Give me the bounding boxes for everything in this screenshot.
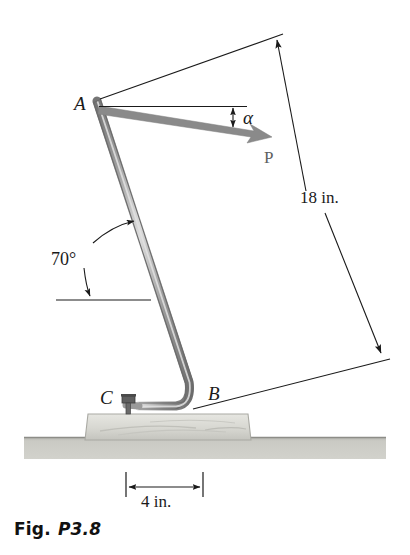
label-point-a: A <box>72 93 86 114</box>
figure-caption: Fig.P3.8 <box>14 519 101 539</box>
label-dimension-18in: 18 in. <box>300 188 339 207</box>
caption-number: P3.8 <box>58 519 101 539</box>
label-point-b: B <box>208 383 220 404</box>
mechanics-diagram: A B C P α 70° 18 in. 4 in. <box>0 0 410 555</box>
dimension-18in <box>100 34 390 409</box>
label-angle-alpha: α <box>243 107 254 128</box>
label-angle-70: 70° <box>51 249 76 269</box>
base-slab <box>85 414 251 440</box>
bent-rod <box>93 99 193 409</box>
label-force-p: P <box>264 148 273 167</box>
figure-container: A B C P α 70° 18 in. 4 in. Fig.P3.8 <box>0 0 410 555</box>
label-point-c: C <box>100 387 113 408</box>
label-dimension-4in: 4 in. <box>141 492 171 511</box>
caption-prefix: Fig. <box>14 519 51 539</box>
